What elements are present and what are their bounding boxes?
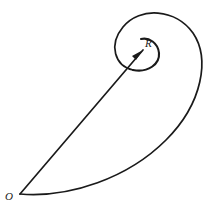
spiral-figure: R O — [0, 0, 217, 214]
radius-vector — [20, 50, 143, 194]
spiral-diagram-canvas — [0, 0, 217, 214]
pole-label: O — [5, 191, 13, 202]
outer-spiral-arc — [20, 13, 202, 195]
radius-arrow-head — [132, 50, 143, 60]
radius-label: R — [145, 38, 152, 49]
